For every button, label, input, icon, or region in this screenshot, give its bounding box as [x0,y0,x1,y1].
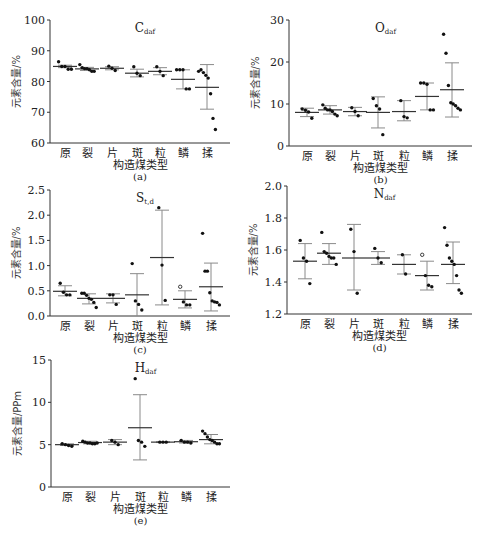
data-point [160,263,163,266]
data-point [155,65,158,68]
data-point [305,260,308,263]
panel-caption: (a) [133,171,147,182]
category-label: 裂 [85,491,96,504]
data-point [158,70,161,73]
data-point [93,70,96,73]
chart-title-subscript: daf [145,368,158,376]
category-label: 揉 [206,319,217,333]
data-point [113,440,116,443]
data-point [183,440,186,443]
data-point [320,231,323,234]
data-point [209,92,212,95]
data-point [143,445,146,448]
data-point [181,68,184,71]
data-point [134,299,137,302]
data-point [95,306,98,309]
y-tick-label: 0.5 [28,285,46,298]
y-tick-label: 1.5 [28,234,46,247]
data-point [204,74,207,77]
category-label: 粒 [155,146,166,160]
data-point [164,299,167,302]
data-point [111,293,114,296]
y-axis-label: 元素含量/% [10,55,22,108]
y-axis-label: 元素含量/% [247,224,259,277]
data-point [132,65,135,68]
data-point [61,442,64,445]
category-label: 揉 [206,490,217,504]
data-point [432,108,435,111]
data-point [139,74,142,77]
data-point [110,67,113,70]
data-point [158,440,161,443]
data-point [378,107,381,110]
category-label: 揉 [447,149,458,163]
data-point [380,261,383,264]
y-tick-label: 15 [32,354,46,367]
chart-title-subscript: daf [384,194,397,202]
category-label: 鳞 [181,490,192,504]
y-tick-label: 60 [31,137,45,150]
y-tick-label: 0 [39,481,46,494]
data-point [352,250,355,253]
data-point [206,435,209,438]
data-point [421,253,424,256]
data-point [331,110,334,113]
category-label: 原 [60,320,71,333]
data-point [208,291,211,294]
data-point [188,87,191,90]
data-point [299,239,302,242]
data-point [375,104,378,107]
x-axis-label: 构造煤类型 [113,502,168,516]
panel-caption: (c) [133,344,147,355]
y-axis-label: 元素含量/PPm [11,391,23,456]
data-point [114,69,117,72]
data-point [67,68,70,71]
data-point [117,443,120,446]
chart-title-subscript: daf [385,28,398,36]
chart-title-subscript: daf [144,28,157,36]
panel-caption: (d) [372,342,386,353]
x-axis-label: 构造煤类型 [113,331,168,345]
data-point [180,439,183,442]
category-label: 裂 [325,150,336,163]
category-label: 鳞 [178,146,189,160]
data-point [131,262,134,265]
data-point [188,303,191,306]
data-point [448,256,451,259]
data-point [399,99,402,102]
data-point [425,83,428,86]
data-point [60,65,63,68]
data-point [310,117,313,120]
data-point [429,108,432,111]
data-point [67,444,70,447]
category-label: 揉 [448,317,459,331]
data-point [454,104,457,107]
data-point [189,441,192,444]
data-point [62,291,65,294]
data-point [349,228,352,231]
category-label: 鳞 [422,317,433,331]
data-point [137,439,140,442]
data-point [453,263,456,266]
y-axis-label: 元素含量/% [10,227,22,280]
data-point [302,256,305,259]
category-label: 粒 [399,317,410,331]
data-point [427,284,430,287]
y-tick-label: 0.0 [28,310,46,323]
chart-title-subscript: t,d [144,198,154,206]
data-point [201,232,204,235]
data-point [64,443,67,446]
y-tick-label: 100 [24,14,45,27]
data-point [185,87,188,90]
data-point [455,274,458,277]
y-tick-label: 2.0 [28,209,46,222]
data-point [70,445,73,448]
data-point [401,253,404,256]
data-point [92,301,95,304]
chart-title: Cdaf [135,21,157,36]
category-label: 粒 [157,319,168,333]
data-point [430,285,433,288]
data-point [161,440,164,443]
panel-caption: (e) [134,515,148,526]
figure-canvas: 60708090100元素含量/%Cdaf原裂片斑粒鳞揉构造煤类型(a)0102… [0,0,484,535]
